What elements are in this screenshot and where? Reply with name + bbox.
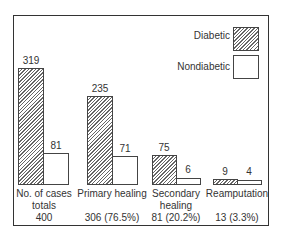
value-label: 81 [41,140,71,151]
bar-nondiabetic-reamputation [237,180,262,185]
bar-nondiabetic-primary [112,156,138,185]
category-line: Reamputation [197,188,277,200]
bar-diabetic-cases [18,68,44,185]
category-line: 13 (3.3%) [197,212,277,224]
value-label: 75 [149,142,179,153]
value-label: 319 [16,55,46,66]
legend-label-nondiabetic: Nondiabetic [150,61,230,72]
category-label-reamputation: Reamputation 13 (3.3%) [197,188,277,224]
legend-swatch-nondiabetic [233,55,259,79]
value-label: 71 [110,143,140,154]
bar-diabetic-reamputation [213,179,238,185]
value-label: 4 [234,166,264,177]
value-label: 6 [173,164,203,175]
bar-diabetic-primary [87,96,113,185]
bar-nondiabetic-cases [43,153,69,185]
bar-nondiabetic-secondary [176,178,201,185]
legend-swatch-diabetic [233,27,259,51]
legend-label-diabetic: Diabetic [150,30,230,41]
value-label: 235 [85,83,115,94]
